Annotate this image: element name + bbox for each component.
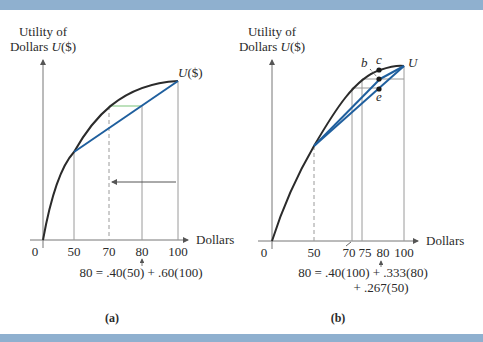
caption-a: (a) [105, 311, 119, 325]
panel-b: Utility of Dollars U($) b c e U 0 50 70 [239, 24, 464, 325]
lottery-chord [74, 81, 178, 152]
utility-curve [272, 66, 404, 241]
label-b: b [361, 55, 368, 70]
tick-50: 50 [68, 244, 81, 259]
curve-label: U [408, 55, 419, 70]
y-axis-label-line2: Dollars U($) [10, 39, 76, 54]
tick-0: 0 [261, 245, 268, 260]
tick-70: 70 [343, 245, 356, 260]
equation: 80 = .40(50) + .60(100) [80, 265, 203, 280]
utility-diagram: Utility of Dollars U($) U($) 0 50 70 80 … [0, 0, 483, 342]
y-axis-label-line1: Utility of [248, 24, 297, 39]
label-e: e [376, 89, 382, 104]
tick-80: 80 [377, 245, 390, 260]
tick-100: 100 [168, 244, 188, 259]
tick-0: 0 [32, 244, 39, 259]
x-axis-label: Dollars [426, 233, 464, 248]
chord-50-80 [314, 79, 380, 146]
panel-a: Utility of Dollars U($) U($) 0 50 70 80 … [10, 24, 234, 325]
point-b [376, 76, 381, 81]
x-axis-label: Dollars [196, 232, 234, 247]
caption-b: (b) [331, 311, 346, 325]
curve-label: U($) [178, 65, 203, 80]
tick-75: 75 [359, 245, 372, 260]
equation-line1: 80 = .40(100) + .333(80) [298, 265, 427, 280]
y-axis-label-line1: Utility of [19, 24, 68, 39]
y-axis-label-line2: Dollars U($) [239, 39, 305, 54]
label-c: c [376, 52, 382, 67]
tick-80: 80 [136, 244, 149, 259]
chord-50-100 [314, 66, 404, 146]
tick-50: 50 [308, 245, 321, 260]
tick-70: 70 [103, 244, 116, 259]
utility-curve [43, 81, 178, 240]
equation-line2: + .267(50) [354, 280, 409, 295]
tick-100: 100 [394, 245, 414, 260]
point-c [376, 67, 381, 72]
